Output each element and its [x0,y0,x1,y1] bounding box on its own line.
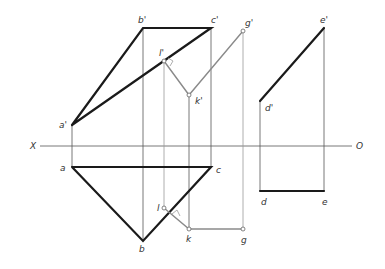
label-b: b [139,244,145,254]
point-k-prime [187,93,191,97]
label-l-prime: l' [159,48,164,58]
point-l [162,206,166,210]
label-b-prime: b' [138,15,146,25]
label-e: e [322,197,328,207]
construction-front [164,31,243,95]
label-e-prime: e' [320,15,328,25]
axis-label-x: X [29,141,37,151]
point-l-prime [162,59,166,63]
right-angle-mark-front [168,58,173,66]
triangle-front-view [72,28,211,125]
descriptive-geometry-drawing: X O a' b' c' g' l' k' d' e' a b c l k g … [0,0,385,269]
line-de-front [260,28,324,101]
label-c-prime: c' [211,15,218,25]
axis-label-o: O [356,141,363,151]
point-k [187,227,191,231]
label-d: d [261,197,267,207]
label-c: c [216,165,221,175]
point-g [241,227,245,231]
label-a-prime: a' [59,120,67,130]
label-l: l [157,203,160,213]
label-g-prime: g' [245,18,253,28]
point-g-prime [241,29,245,33]
label-g: g [241,235,247,245]
label-k-prime: k' [195,96,203,106]
label-d-prime: d' [265,103,273,113]
label-k: k [186,234,192,244]
label-a: a [60,163,66,173]
